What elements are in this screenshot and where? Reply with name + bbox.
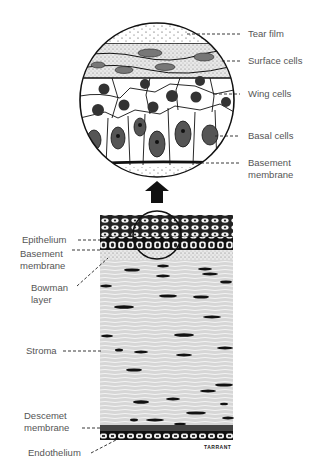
label-basal-cells: Basal cells [248,130,293,142]
label-wing-cells: Wing cells [248,88,291,100]
label-surface-cells: Surface cells [248,55,302,67]
label-stroma: Stroma [26,345,57,357]
magnify-arrow-icon [145,181,169,203]
label-endothelium: Endothelium [28,447,81,459]
cornea-cross-section [100,215,234,455]
label-epithelium: Epithelium [22,234,66,246]
label-basement-membrane-magnified: Basement membrane [248,157,293,181]
label-basement-membrane: Basement membrane [20,248,65,272]
artist-signature: TARRANT [204,441,231,453]
label-bowman-layer: Bowman layer [31,282,68,306]
label-tear-film: Tear film [248,28,284,40]
label-descemet-membrane: Descemet membrane [24,410,69,434]
